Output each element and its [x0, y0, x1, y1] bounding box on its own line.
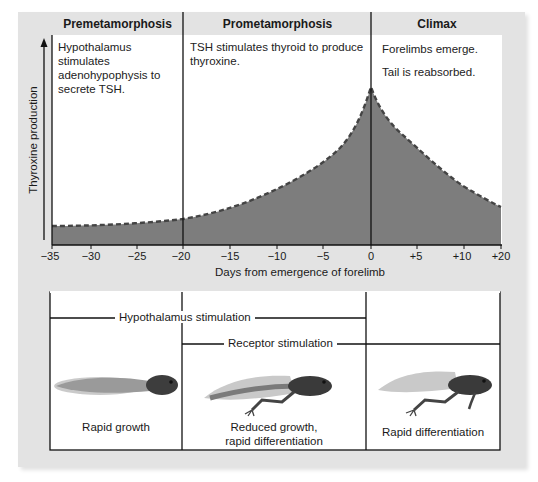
stage-caption-rapid-growth: Rapid growth: [50, 420, 182, 434]
tadpole-four-limbs-icon: [378, 371, 492, 416]
stimulation-lines: [0, 0, 538, 482]
tadpole-hind-limbs-icon: [204, 376, 332, 416]
hypothalamus-stimulation-label: Hypothalamus stimulation: [115, 311, 255, 323]
receptor-stimulation-label: Receptor stimulation: [224, 337, 337, 349]
tadpole-no-limbs-icon: [54, 375, 178, 395]
stage-caption-rapid-differentiation: Rapid differentiation: [366, 425, 500, 439]
stage-caption-reduced-growth: Reduced growth, rapid differentiation: [182, 420, 366, 448]
